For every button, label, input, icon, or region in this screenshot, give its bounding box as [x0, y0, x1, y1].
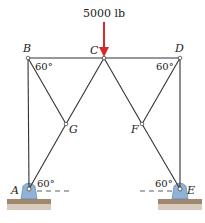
member-cf [104, 58, 142, 124]
angle-label-b: 60° [35, 61, 53, 72]
joint-e [178, 187, 182, 191]
load-arrow [99, 22, 109, 57]
joint-a [27, 187, 31, 191]
ground-right [158, 199, 202, 210]
joint-b [26, 56, 30, 60]
member-ab [28, 58, 29, 189]
joint-f [140, 122, 144, 126]
label-e: E [186, 184, 195, 197]
joint-d [178, 56, 182, 60]
member-gc [66, 58, 104, 124]
label-d: D [174, 42, 184, 55]
label-c: C [90, 44, 99, 57]
label-b: B [22, 42, 31, 55]
truss-diagram: 5000 lb B C D G F A E 60° 60° 60° 60° [0, 0, 205, 223]
ground-left [7, 199, 51, 210]
angle-label-e: 60° [155, 178, 173, 189]
label-g: G [69, 123, 78, 136]
angle-label-a: 60° [37, 178, 55, 189]
label-f: F [130, 123, 139, 136]
joint-g [64, 122, 68, 126]
load-label: 5000 lb [83, 7, 125, 20]
label-a: A [10, 184, 19, 197]
angle-label-d: 60° [156, 61, 174, 72]
truss-members [28, 58, 180, 189]
joints [26, 56, 182, 191]
